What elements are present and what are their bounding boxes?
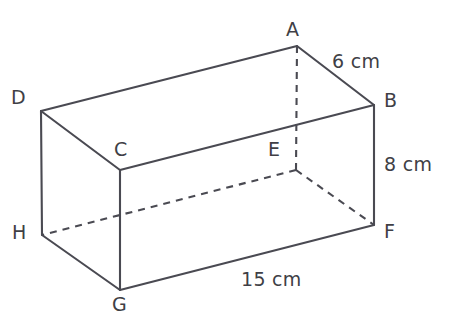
- edge-E-F: [296, 170, 374, 225]
- solid-edge-group: [41, 46, 374, 290]
- vertex-label-b: B: [384, 91, 397, 110]
- edge-H-G: [42, 235, 120, 290]
- vertex-label-c: C: [114, 140, 127, 159]
- dimension-label-length: 15 cm: [241, 270, 302, 289]
- edge-C-B: [120, 105, 374, 170]
- edge-D-C: [41, 111, 120, 170]
- dimension-label-height: 8 cm: [384, 155, 432, 174]
- vertex-label-f: F: [384, 222, 395, 241]
- edge-D-H: [41, 111, 42, 235]
- edge-E-H: [42, 170, 296, 235]
- edge-A-E: [296, 46, 297, 170]
- edge-D-A: [41, 46, 297, 111]
- dashed-edge-group: [42, 46, 374, 235]
- dimension-label-depth: 6 cm: [332, 52, 380, 71]
- vertex-label-h: H: [12, 223, 27, 242]
- vertex-label-e: E: [268, 140, 280, 159]
- vertex-label-d: D: [11, 88, 26, 107]
- cuboid-diagram: ABCDEFGH 6 cm8 cm15 cm: [0, 0, 454, 322]
- vertex-label-a: A: [286, 20, 299, 39]
- vertex-label-g: G: [112, 295, 127, 314]
